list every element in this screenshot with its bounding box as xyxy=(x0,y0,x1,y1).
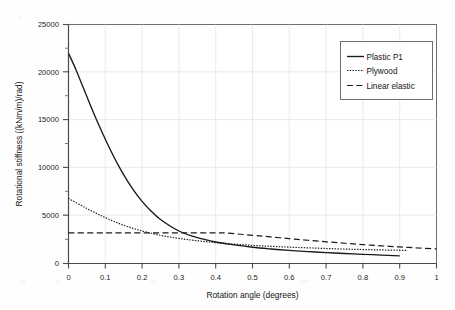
y-tick-label: 5000 xyxy=(42,211,59,220)
x-axis-title: Rotation angle (degrees) xyxy=(206,290,298,300)
y-tick-label: 0 xyxy=(55,259,59,268)
svg-text:a: a xyxy=(18,12,22,20)
y-tick-label: 25000 xyxy=(38,20,59,29)
x-tick-label: 0.4 xyxy=(210,273,221,282)
x-tick-label: 0.3 xyxy=(174,273,185,282)
y-tick-label: 20000 xyxy=(38,68,59,77)
svg-text:in: in xyxy=(55,277,61,285)
x-tick-label: 0.1 xyxy=(100,273,111,282)
chart-legend: Plastic P1 Plywood Linear elastic xyxy=(341,42,433,100)
x-tick-label: 0.7 xyxy=(321,273,332,282)
x-tick-label: 0.8 xyxy=(358,273,369,282)
y-axis-major-ticks xyxy=(63,25,69,264)
y-tick-labels: 0 5000 10000 15000 20000 25000 xyxy=(38,20,59,268)
x-axis-ticks xyxy=(69,264,437,269)
legend-label-plywood: Plywood xyxy=(367,67,398,76)
rotational-stiffness-line-chart: to in of the a of xyxy=(0,0,455,310)
x-tick-label: 0.5 xyxy=(247,273,258,282)
svg-text:the: the xyxy=(300,277,309,285)
x-tick-labels: 0 0.1 0.2 0.3 0.4 0.5 0.6 0.7 0.8 0.9 1 xyxy=(66,273,438,282)
y-axis-title: Rotational stiffness ((kNm/m)/rad) xyxy=(14,81,24,206)
x-tick-label: 1 xyxy=(434,273,438,282)
y-tick-label: 10000 xyxy=(38,163,59,172)
x-tick-label: 0.2 xyxy=(137,273,148,282)
y-tick-label: 15000 xyxy=(38,115,59,124)
svg-text:to: to xyxy=(20,277,26,285)
x-tick-label: 0 xyxy=(66,273,70,282)
legend-label-plastic-p1: Plastic P1 xyxy=(367,53,404,62)
x-tick-label: 0.9 xyxy=(394,273,405,282)
chart-figure: to in of the a of xyxy=(0,0,455,310)
x-tick-label: 0.6 xyxy=(284,273,295,282)
svg-text:of: of xyxy=(150,277,157,285)
legend-label-linear-elastic: Linear elastic xyxy=(367,82,415,91)
